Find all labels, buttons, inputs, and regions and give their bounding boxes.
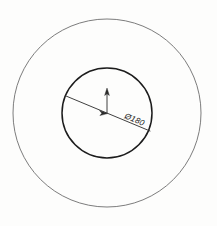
- drawing-viewport: Ø180: [0, 0, 217, 226]
- technical-drawing-canvas: Ø180: [0, 0, 217, 226]
